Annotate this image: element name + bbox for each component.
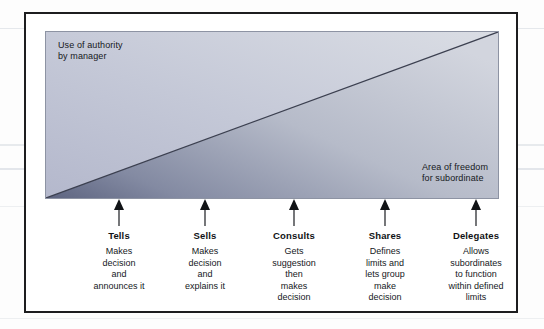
column-description: Gets suggestion then makes decision xyxy=(246,246,342,304)
column-description: Defines limits and lets group make decis… xyxy=(337,246,433,304)
column-tells: Tells Makes decision and announces it xyxy=(71,199,167,292)
column-title: Tells xyxy=(71,230,167,241)
column-description: Allows subordinates to function within d… xyxy=(428,246,524,304)
column-title: Delegates xyxy=(428,230,524,241)
continuum-columns: Tells Makes decision and announces it Se… xyxy=(26,199,516,311)
column-title: Consults xyxy=(246,230,342,241)
column-shares: Shares Defines limits and lets group mak… xyxy=(337,199,433,304)
column-consults: Consults Gets suggestion then makes deci… xyxy=(246,199,342,304)
up-arrow-icon xyxy=(157,199,253,227)
up-arrow-icon xyxy=(428,199,524,227)
figure-frame: Use of authority by manager Area of free… xyxy=(24,12,518,313)
freedom-region-label: Area of freedom for subordinate xyxy=(422,162,488,184)
column-sells: Sells Makes decision and explains it xyxy=(157,199,253,292)
up-arrow-icon xyxy=(337,199,433,227)
figure-page: Use of authority by manager Area of free… xyxy=(0,0,544,329)
column-delegates: Delegates Allows subordinates to functio… xyxy=(428,199,524,304)
column-title: Sells xyxy=(157,230,253,241)
up-arrow-icon xyxy=(71,199,167,227)
column-description: Makes decision and explains it xyxy=(157,246,253,292)
authority-region-label: Use of authority by manager xyxy=(58,40,123,62)
scan-band xyxy=(0,318,544,319)
up-arrow-icon xyxy=(246,199,342,227)
continuum-diagram: Use of authority by manager Area of free… xyxy=(45,31,499,199)
column-description: Makes decision and announces it xyxy=(71,246,167,292)
column-title: Shares xyxy=(337,230,433,241)
